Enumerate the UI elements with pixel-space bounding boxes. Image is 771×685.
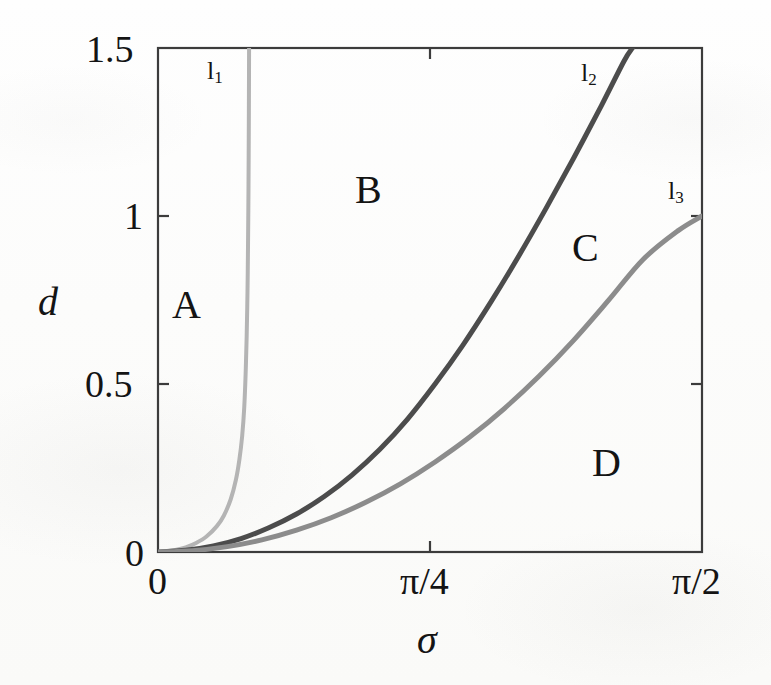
- curve-label-l2-sub: 2: [588, 70, 597, 89]
- curve-label-l2: l2: [581, 60, 597, 86]
- y-tick-label-0.5: 0.5: [85, 365, 133, 403]
- curve-label-l3: l3: [668, 178, 684, 204]
- curve-label-l3-sub: 3: [675, 188, 684, 207]
- y-tick-label-1: 1: [124, 197, 143, 235]
- curve-l2: [158, 48, 632, 552]
- region-label-c: C: [572, 228, 599, 268]
- x-tick-label-pi-over-4: π/4: [400, 562, 449, 600]
- y-tick-label-0: 0: [125, 534, 144, 572]
- y-axis-title: d: [38, 282, 58, 322]
- x-tick-label-pi-over-2: π/2: [672, 562, 721, 600]
- curve-label-l1-sub: 1: [214, 68, 223, 87]
- region-label-d: D: [592, 443, 621, 483]
- y-tick-label-1.5: 1.5: [86, 30, 134, 68]
- curve-l3: [158, 216, 702, 552]
- x-axis-title: σ: [417, 620, 437, 660]
- figure-canvas: 1.5 1 0.5 0 0 π/4 π/2 d σ A B C D l1 l2 …: [0, 0, 771, 685]
- region-label-a: A: [172, 285, 201, 325]
- region-label-b: B: [355, 170, 382, 210]
- phase-diagram-plot: [0, 0, 771, 685]
- x-tick-label-0: 0: [148, 562, 167, 600]
- curve-label-l1: l1: [207, 58, 223, 84]
